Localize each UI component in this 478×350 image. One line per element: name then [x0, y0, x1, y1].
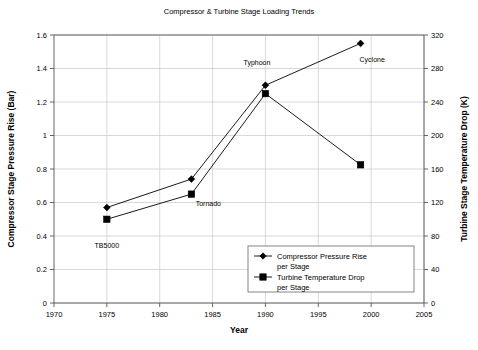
y2-tick-label: 280 — [431, 64, 444, 73]
y-axis-title: Compressor Stage Pressure Rise (Bar) — [6, 90, 16, 247]
legend-label-line1: Compressor Pressure Rise — [277, 252, 367, 261]
x-tick-label: 1995 — [310, 310, 327, 319]
legend-label-line1: Turbine Temperature Drop — [277, 273, 365, 282]
y2-tick-label: 200 — [431, 131, 444, 140]
point-annotation-label: Typhoon — [244, 59, 271, 67]
point-annotation-label: TB5000 — [95, 242, 120, 249]
data-point-marker — [357, 162, 363, 168]
x-tick-label: 2000 — [363, 310, 380, 319]
legend-square-marker — [260, 274, 266, 280]
y2-tick-label: 240 — [431, 98, 444, 107]
x-tick-label: 1980 — [151, 310, 168, 319]
y2-tick-label: 320 — [431, 31, 444, 40]
legend-label-line2: per Stage — [277, 262, 310, 271]
y-tick-label: 0 — [43, 299, 47, 308]
data-point-marker — [188, 191, 194, 197]
x-tick-label: 1970 — [46, 310, 63, 319]
x-tick-label: 1985 — [204, 310, 221, 319]
y-axis-tick-labels: 00.20.40.60.811.21.41.6 — [37, 31, 47, 308]
y2-tick-label: 160 — [431, 165, 444, 174]
chart-legend: Compressor Pressure Riseper StageTurbine… — [248, 246, 414, 292]
x-tick-label: 2005 — [416, 310, 433, 319]
y-tick-label: 1.2 — [37, 98, 47, 107]
y2-tick-label: 0 — [431, 299, 435, 308]
y2-axis-title: Turbine Stage Temperature Drop (K) — [459, 96, 469, 242]
y-tick-label: 0.8 — [37, 165, 47, 174]
data-point-marker — [104, 216, 110, 222]
x-tick-label: 1975 — [99, 310, 116, 319]
y2-tick-label: 40 — [431, 265, 439, 274]
y-tick-label: 1.4 — [37, 64, 47, 73]
loading-trends-chart: Compressor & Turbine Stage Loading Trend… — [0, 0, 478, 350]
x-tick-label: 1990 — [257, 310, 274, 319]
x-axis-title: Year — [230, 325, 249, 335]
y-tick-label: 0.4 — [37, 232, 47, 241]
chart-title: Compressor & Turbine Stage Loading Trend… — [164, 7, 315, 16]
point-annotation-label: Cyclone — [360, 56, 385, 64]
y2-tick-label: 80 — [431, 232, 439, 241]
y-tick-label: 1 — [43, 131, 47, 140]
chart-background — [0, 0, 478, 350]
legend-label-line2: per Stage — [277, 283, 310, 292]
point-annotation-label: Tornado — [196, 200, 221, 207]
y2-tick-label: 120 — [431, 198, 444, 207]
y-tick-label: 1.6 — [37, 31, 47, 40]
chart-container: Compressor & Turbine Stage Loading Trend… — [0, 0, 478, 350]
data-point-marker — [262, 90, 268, 96]
y-tick-label: 0.2 — [37, 265, 47, 274]
y-tick-label: 0.6 — [37, 198, 47, 207]
